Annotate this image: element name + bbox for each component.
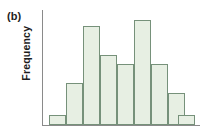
histogram-figure: (b) Frequency (0, 0, 206, 140)
histogram-bar (117, 64, 134, 125)
x-axis-line (42, 125, 200, 126)
histogram-bar (151, 64, 168, 125)
y-axis-title: Frequency (21, 17, 32, 89)
histogram-bar (178, 115, 195, 125)
histogram-bar (100, 55, 117, 125)
plot-area (42, 10, 200, 126)
histogram-bar (49, 115, 66, 125)
histogram-bar (134, 20, 151, 125)
bar-series (42, 10, 200, 125)
histogram-bar (66, 83, 83, 125)
panel-label: (b) (7, 11, 21, 22)
histogram-bar (83, 26, 100, 125)
